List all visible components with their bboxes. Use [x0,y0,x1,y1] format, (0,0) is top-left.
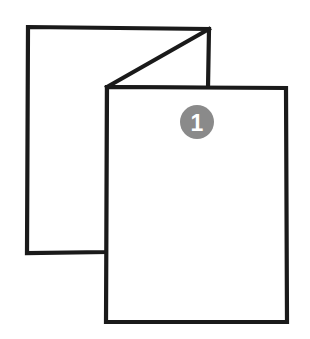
folded-paper-diagram: Folded sheet step illustration 1 [0,0,310,339]
step-number-label: 1 [191,110,204,136]
diagram-svg: Folded sheet step illustration 1 [0,0,310,339]
